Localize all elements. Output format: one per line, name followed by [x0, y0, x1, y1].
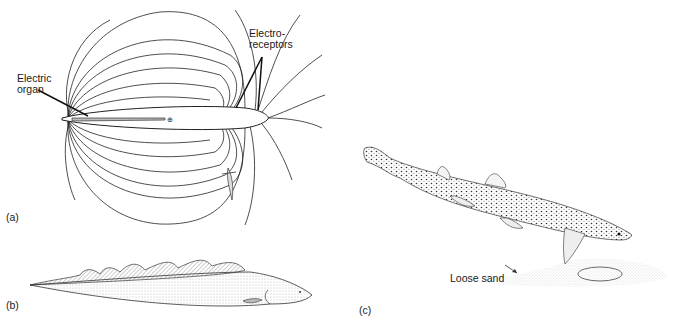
panel-c-label: (c) [359, 305, 371, 316]
panel-a-label: (a) [6, 212, 19, 223]
pectoral-fin [564, 228, 586, 264]
panel-c: Loose sand (c) [355, 130, 685, 332]
knifefish-illustration [0, 230, 330, 332]
electric-organ-label: Electric organ [17, 73, 51, 95]
shark-body [364, 147, 632, 240]
electroreceptors-label: Electro- receptors [249, 28, 293, 50]
panel-a: ⊕ Electric organ Electro- receptors (a) [0, 0, 330, 230]
shark-and-flatfish-illustration [355, 130, 685, 332]
loose-sand-label: Loose sand [450, 273, 504, 284]
panel-b-label: (b) [6, 300, 19, 311]
svg-text:⊕: ⊕ [167, 116, 173, 124]
shark-eye [617, 232, 620, 235]
panel-b: (b) [0, 230, 330, 332]
